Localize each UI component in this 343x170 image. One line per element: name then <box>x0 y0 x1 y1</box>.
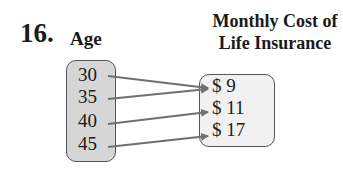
arrow-35-to-9 <box>108 89 208 99</box>
arrow-45-to-17 <box>108 136 208 147</box>
arrow-40-to-11 <box>108 112 208 124</box>
arrow-30-to-9 <box>108 76 208 88</box>
